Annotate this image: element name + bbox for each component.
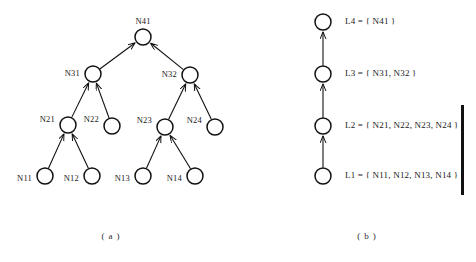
level-node-l3[interactable] [315, 66, 331, 82]
node-label-n14: N14 [167, 173, 183, 183]
panel-b-node-group: L4 = { N41 }L3 = { N31, N32 }L2 = { N21,… [315, 14, 459, 184]
node-label-n23: N23 [137, 115, 152, 125]
node-label-n21: N21 [40, 114, 55, 124]
level-set-label-l3: L3 = { N31, N32 } [345, 68, 417, 78]
right-margin-bar [461, 105, 464, 195]
edge-n22-to-n31 [96, 83, 109, 118]
node-n23[interactable] [157, 119, 173, 135]
edge-n32-to-n41 [151, 43, 184, 69]
edge-n12-to-n21 [72, 134, 88, 168]
node-n14[interactable] [187, 168, 203, 184]
node-n22[interactable] [104, 118, 120, 134]
panel-a-node-group: N41N31N32N21N22N23N24N11N12N13N14 [17, 16, 223, 184]
node-label-n13: N13 [115, 173, 130, 183]
edge-n13-to-n23 [146, 136, 160, 168]
edge-n11-to-n21 [48, 134, 63, 168]
node-label-n22: N22 [84, 114, 99, 124]
node-label-n11: N11 [17, 173, 32, 183]
node-label-n12: N12 [64, 173, 79, 183]
panel-a-edge-group [48, 43, 211, 169]
edge-n31-to-n41 [100, 43, 135, 69]
node-n12[interactable] [84, 168, 100, 184]
level-node-l1[interactable] [315, 168, 331, 184]
node-n32[interactable] [182, 67, 198, 83]
level-set-label-l2: L2 = { N21, N22, N23, N24 } [345, 120, 459, 130]
edge-n14-to-n23 [170, 136, 190, 169]
node-label-n24: N24 [187, 115, 203, 125]
node-n11[interactable] [37, 168, 53, 184]
panel-caption-a: ( a ) [102, 231, 121, 241]
node-label-n41: N41 [135, 16, 150, 26]
figure-page: N41N31N32N21N22N23N24N11N12N13N14 L4 = {… [0, 0, 476, 262]
node-n41[interactable] [135, 29, 151, 45]
edge-n23-to-n32 [169, 84, 186, 119]
node-label-n31: N31 [65, 68, 80, 78]
level-set-label-l1: L1 = { N11, N12, N13, N14 } [345, 170, 458, 180]
edge-n21-to-n31 [72, 83, 89, 117]
level-node-l2[interactable] [315, 118, 331, 134]
node-n31[interactable] [85, 66, 101, 82]
node-label-n32: N32 [162, 69, 177, 79]
level-set-label-l4: L4 = { N41 } [345, 16, 396, 26]
node-n13[interactable] [135, 168, 151, 184]
node-n24[interactable] [207, 119, 223, 135]
panel-caption-b: ( b ) [357, 231, 377, 241]
node-n21[interactable] [60, 117, 76, 133]
tree-level-figure: N41N31N32N21N22N23N24N11N12N13N14 L4 = {… [0, 0, 476, 262]
level-node-l4[interactable] [315, 14, 331, 30]
caption-group: ( a )( b ) [102, 231, 377, 241]
margin-bar-group [461, 105, 464, 195]
